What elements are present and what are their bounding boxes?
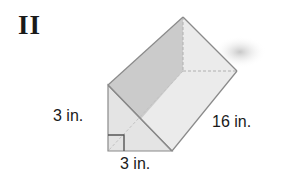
- dimension-height-label: 3 in.: [53, 108, 83, 124]
- figure-canvas: II 3 in. 16 in. 3 in.: [0, 0, 292, 191]
- dimension-base-label: 3 in.: [120, 156, 150, 172]
- dimension-length-label: 16 in.: [212, 114, 251, 130]
